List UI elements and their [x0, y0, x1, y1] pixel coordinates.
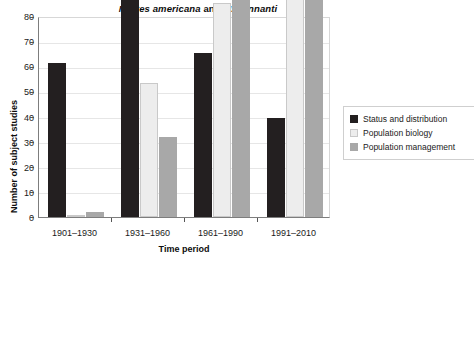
bar-group: [39, 18, 112, 217]
legend-item-status-and-distribution: Status and distribution: [350, 112, 474, 126]
x-tick-label: 1961–1990: [184, 228, 257, 238]
legend-swatch-icon: [350, 115, 358, 123]
x-tick-mark: [111, 218, 112, 222]
y-tick-mark: [30, 67, 34, 68]
plot-area-1: [38, 17, 330, 218]
bar-group: [112, 18, 185, 217]
legend-label: Population biology: [363, 128, 432, 138]
x-tick-mark: [257, 218, 258, 222]
legend-swatch-icon: [350, 143, 358, 151]
legend-item-population-biology: Population biology: [350, 126, 474, 140]
bar-population-management: [86, 212, 104, 217]
x-tick-mark: [184, 218, 185, 222]
bar-group: [185, 18, 258, 217]
y-tick-mark: [30, 167, 34, 168]
legend-label: Status and distribution: [363, 114, 447, 124]
bar-population-biology: [67, 215, 85, 217]
y-tick-mark: [30, 92, 34, 93]
y-tick-mark: [30, 17, 34, 18]
x-axis-title-1: Time period: [38, 244, 330, 254]
bar-population-biology: [213, 3, 231, 217]
y-tick-label: 0: [29, 213, 34, 223]
bar-population-biology: [140, 83, 158, 217]
bar-population-management: [305, 0, 323, 217]
x-tick-label: 1991–2010: [257, 228, 330, 238]
y-tick-mark: [30, 117, 34, 118]
legend-item-population-management: Population management: [350, 140, 474, 154]
y-tick-mark: [30, 142, 34, 143]
y-tick-mark: [30, 192, 34, 193]
bar-status-and-distribution: [121, 0, 139, 217]
legend: Status and distribution Population biolo…: [343, 106, 474, 160]
legend-label: Population management: [363, 142, 455, 152]
y-axis-title-1: Number of subject studies: [9, 100, 19, 213]
y-tick-mark: [30, 42, 34, 43]
chart-panel-martes-martes: Martes martes, M. foina, and M. zibellin…: [0, 270, 474, 355]
legend-swatch-icon: [350, 129, 358, 137]
bar-group: [258, 18, 331, 217]
x-tick-label: 1931–1960: [111, 228, 184, 238]
bar-population-management: [232, 0, 250, 217]
bar-population-biology: [286, 0, 304, 217]
bar-population-management: [159, 137, 177, 217]
x-tick-label: 1901–1930: [38, 228, 111, 238]
figure-two-bar-charts: Martes americana and M. pennanti 80 70 6…: [0, 0, 474, 355]
chart-panel-martes-americana: Martes americana and M. pennanti 80 70 6…: [0, 0, 474, 268]
bar-status-and-distribution: [194, 53, 212, 217]
bar-status-and-distribution: [267, 118, 285, 218]
bars-layer-1: [39, 18, 329, 217]
bar-status-and-distribution: [48, 63, 66, 217]
y-tick-mark: [30, 217, 34, 218]
